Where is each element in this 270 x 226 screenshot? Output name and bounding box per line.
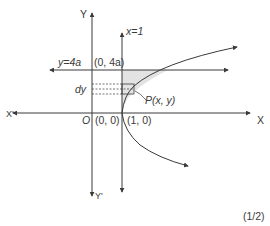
line-x1-label: x=1 <box>125 25 143 37</box>
y-axis-label: Y <box>80 8 87 20</box>
x-axis-left-label: X' <box>6 109 14 119</box>
marks-label: (1/2) <box>243 210 265 222</box>
line-y4a-label: y=4a <box>57 56 81 68</box>
y-axis-bottom-label: Y' <box>95 191 103 201</box>
vertex-coords-label: (1, 0) <box>127 114 152 126</box>
origin-coords-label: (0, 0) <box>95 114 120 126</box>
point-P-label: P(x, y) <box>145 94 175 106</box>
dy-label: dy <box>75 83 87 95</box>
point-04a-label: (0, 4a) <box>94 56 124 68</box>
parabola-area-diagram: Y Y' X X' x=1 y=4a (0, 4a) dy P(x, y) O … <box>0 0 270 226</box>
x-axis-label: X <box>257 114 264 126</box>
origin-label: O <box>82 114 90 126</box>
